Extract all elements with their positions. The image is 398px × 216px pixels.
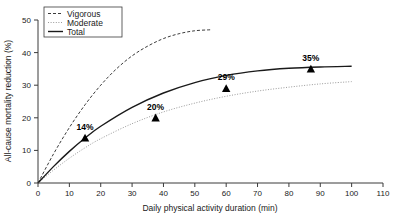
axes — [38, 20, 383, 183]
x-tick-label: 0 — [36, 189, 41, 198]
x-tick-label: 90 — [316, 189, 325, 198]
x-tick-label: 70 — [253, 189, 262, 198]
series-line-moderate — [38, 82, 352, 183]
x-tick-label: 20 — [96, 189, 105, 198]
legend-label-total: Total — [67, 27, 85, 37]
x-axis-title: Daily physical activity duration (min) — [142, 203, 277, 213]
data-point-marker — [222, 84, 230, 92]
x-tick-label: 80 — [284, 189, 293, 198]
y-tick-label: 0 — [27, 179, 32, 188]
x-axis-ticks: 0102030405060708090100110 — [36, 183, 390, 198]
chart-canvas: 14%20%29%35% 0102030405060708090100110 0… — [0, 0, 398, 216]
data-point-marker — [307, 65, 315, 73]
x-tick-label: 110 — [377, 189, 390, 198]
x-tick-label: 60 — [222, 189, 231, 198]
y-axis-title: All-cause mortality reduction (%) — [3, 40, 13, 163]
x-tick-label: 100 — [345, 189, 359, 198]
data-point-label: 20% — [147, 102, 164, 112]
y-tick-label: 50 — [22, 16, 31, 25]
x-tick-label: 10 — [65, 189, 74, 198]
y-tick-label: 10 — [22, 146, 31, 155]
x-tick-label: 50 — [190, 189, 199, 198]
x-tick-label: 30 — [128, 189, 137, 198]
y-tick-label: 40 — [22, 49, 31, 58]
series-line-vigorous — [38, 30, 211, 183]
data-point-label: 35% — [302, 53, 319, 63]
x-tick-label: 40 — [159, 189, 168, 198]
data-point-label: 29% — [218, 72, 235, 82]
y-tick-label: 30 — [22, 81, 31, 90]
data-point-label: 14% — [77, 122, 94, 132]
y-tick-label: 20 — [22, 114, 31, 123]
data-point-marker — [151, 114, 159, 122]
y-axis-ticks: 01020304050 — [22, 16, 38, 188]
chart-legend: Vigorous Moderate Total — [44, 7, 122, 37]
data-point-markers: 14%20%29%35% — [77, 53, 320, 142]
chart-figure: 14%20%29%35% 0102030405060708090100110 0… — [0, 0, 398, 216]
